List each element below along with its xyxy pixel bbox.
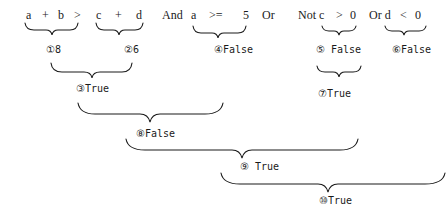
brace-icon	[385, 26, 426, 35]
brace-icon	[96, 23, 143, 35]
brace-icon	[317, 66, 361, 77]
step-label-1: ①8	[46, 45, 61, 55]
step-label-9: ⑨ True	[240, 162, 279, 172]
brace-icon	[221, 173, 445, 192]
step-label-7: ⑦True	[318, 89, 351, 99]
step-label-5: ⑤ False	[316, 45, 361, 55]
brace-icon	[25, 23, 78, 35]
brace-icon	[51, 63, 132, 78]
brace-layer	[0, 0, 448, 216]
step-label-2: ②6	[124, 45, 139, 55]
step-label-10: ⑩True	[319, 196, 352, 206]
brace-icon	[126, 139, 358, 158]
brace-icon	[78, 103, 223, 122]
step-label-3: ③True	[76, 84, 109, 94]
brace-icon	[322, 26, 356, 35]
step-label-6: ⑥False	[392, 45, 431, 55]
step-label-8: ⑧False	[136, 129, 175, 139]
brace-icon	[193, 26, 246, 38]
step-label-4: ④False	[214, 45, 253, 55]
